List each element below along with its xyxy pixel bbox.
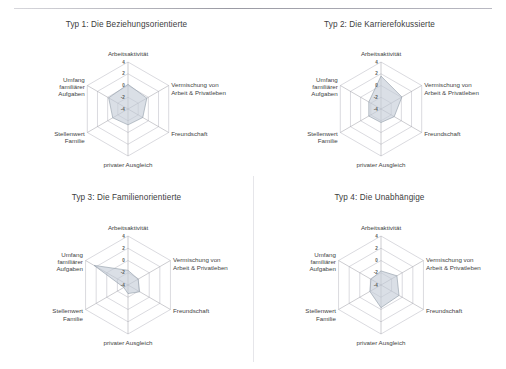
panel-divider-vertical (253, 176, 254, 362)
data-series-polygon (109, 84, 147, 125)
top-divider-rule (14, 8, 492, 9)
axis-tick-label: 0 (375, 83, 378, 88)
axis-category-label: Stellenwert (305, 307, 336, 314)
radar-chart-typ2: 420-2-4ArbeitsaktivitätVermischung vonAr… (253, 12, 506, 185)
axis-category-label: Stellenwert (52, 307, 83, 314)
axis-category-label: Aufgaben (311, 90, 338, 97)
axis-category-label: privater Ausgleich (357, 161, 406, 168)
axis-tick-label: 0 (375, 258, 378, 263)
axis-category-label: Stellenwert (54, 130, 85, 137)
axis-category-label: Freundschaft (171, 130, 207, 137)
axis-tick-label: 4 (375, 234, 378, 239)
axis-category-label: familiärer (59, 83, 84, 90)
axis-category-label: Umfang (61, 251, 83, 258)
axis-category-label: Freundschaft (173, 307, 209, 314)
axis-category-label: Aufgaben (56, 265, 83, 272)
axis-tick-label: -2 (374, 270, 379, 275)
axis-category-label: familiärer (57, 258, 82, 265)
axis-category-label: Arbeit & Privatleben (171, 89, 226, 96)
axis-tick-label: 4 (375, 60, 378, 65)
axis-tick-label: 0 (122, 83, 125, 88)
axis-category-label: Familie (318, 137, 338, 144)
axis-category-label: Freundschaft (424, 130, 460, 137)
axis-category-label: Arbeit & Privatleben (173, 264, 228, 271)
axis-tick-label: -4 (121, 283, 126, 288)
axis-category-label: Aufgaben (309, 265, 336, 272)
axis-category-label: Arbeitsaktivität (361, 50, 402, 57)
axis-tick-label: 2 (122, 71, 125, 76)
axis-category-label: privater Ausgleich (104, 161, 153, 168)
axis-tick-label: 2 (122, 246, 125, 251)
radar-chart-typ4: 420-2-4ArbeitsaktivitätVermischung vonAr… (253, 185, 506, 369)
axis-category-label: Umfang (316, 76, 338, 83)
axis-tick-label: -2 (121, 95, 126, 100)
axis-category-label: Umfang (63, 76, 85, 83)
axis-category-label: Aufgaben (58, 90, 85, 97)
axis-category-label: Arbeitsaktivität (108, 50, 149, 57)
axis-tick-label: 0 (122, 258, 125, 263)
chart-panel-typ1: Typ 1: Die Beziehungsorientierte 420-2-4… (0, 12, 253, 185)
axis-category-label: Arbeit & Privatleben (424, 89, 479, 96)
axis-category-label: privater Ausgleich (104, 339, 153, 346)
chart-panel-typ3: Typ 3: Die Familienorientierte 420-2-4Ar… (0, 185, 253, 369)
axis-category-label: Familie (65, 137, 85, 144)
axis-category-label: Familie (63, 315, 83, 322)
axis-category-label: familiärer (310, 258, 335, 265)
axis-category-label: Familie (316, 315, 336, 322)
axis-tick-label: -2 (121, 270, 126, 275)
data-series-polygon (94, 265, 140, 293)
axis-category-label: Vermischung von (424, 81, 472, 88)
axis-category-label: Arbeit & Privatleben (426, 264, 481, 271)
chart-panel-typ2: Typ 2: Die Karrierefokussierte 420-2-4Ar… (253, 12, 506, 185)
data-series-polygon (370, 271, 399, 308)
axis-category-label: Freundschaft (426, 307, 462, 314)
axis-tick-label: 4 (122, 60, 125, 65)
chart-panel-typ4: Typ 4: Die Unabhängige 420-2-4Arbeitsakt… (253, 185, 506, 369)
axis-category-label: Arbeitsaktivität (108, 224, 149, 231)
axis-tick-label: -2 (374, 95, 379, 100)
axis-tick-label: 2 (375, 246, 378, 251)
radar-chart-typ3: 420-2-4ArbeitsaktivitätVermischung vonAr… (0, 185, 253, 369)
axis-category-label: Vermischung von (426, 256, 474, 263)
axis-tick-label: -4 (121, 107, 126, 112)
axis-category-label: Umfang (314, 251, 336, 258)
axis-category-label: Arbeitsaktivität (361, 224, 402, 231)
axis-category-label: Vermischung von (171, 81, 219, 88)
radar-chart-typ1: 420-2-4ArbeitsaktivitätVermischung vonAr… (0, 12, 253, 185)
axis-category-label: familiärer (312, 83, 337, 90)
axis-category-label: privater Ausgleich (357, 339, 406, 346)
axis-tick-label: -4 (374, 107, 379, 112)
axis-tick-label: 2 (375, 71, 378, 76)
axis-category-label: Vermischung von (173, 256, 221, 263)
axis-tick-label: 4 (122, 234, 125, 239)
axis-tick-label: -4 (374, 283, 379, 288)
axis-category-label: Stellenwert (307, 130, 338, 137)
